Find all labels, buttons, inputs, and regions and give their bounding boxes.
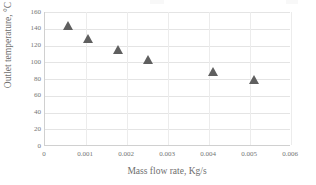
gridline-vertical <box>86 12 87 145</box>
x-axis-tick-labels: 00.0010.0020.0030.0040.0050.006 <box>0 150 316 160</box>
chart-container: 020406080100120140160 00.0010.0020.0030.… <box>0 0 316 185</box>
y-axis-tick-label: 0 <box>1 143 41 150</box>
data-point-marker <box>63 21 73 30</box>
x-axis-tick-label: 0.005 <box>227 150 271 158</box>
data-point-marker <box>113 45 123 54</box>
x-axis-tick-label: 0 <box>22 150 66 158</box>
y-axis-title: Outlet temperature, °C <box>2 2 14 88</box>
cropped-caption-artifact <box>150 0 164 4</box>
data-point-marker <box>208 67 218 76</box>
x-axis-tick-label: 0.003 <box>145 150 189 158</box>
x-axis-tick-label: 0.004 <box>186 150 230 158</box>
y-axis-tick-label: 40 <box>1 109 41 116</box>
data-point-marker <box>143 55 153 64</box>
cropped-caption-artifact <box>286 0 298 4</box>
x-axis-tick-label: 0.006 <box>268 150 312 158</box>
plot-area <box>44 12 290 146</box>
y-axis-tick-label: 20 <box>1 126 41 133</box>
data-point-marker <box>83 34 93 43</box>
gridline-vertical <box>168 12 169 145</box>
data-point-marker <box>249 75 259 84</box>
y-axis-title-wrapper: Outlet temperature, °C <box>1 0 15 105</box>
x-axis-tick-label: 0.002 <box>104 150 148 158</box>
gridline-vertical <box>209 12 210 145</box>
gridline-vertical <box>127 12 128 145</box>
x-axis-tick-label: 0.001 <box>63 150 107 158</box>
x-axis-title: Mass flow rate, Kg/s <box>44 165 290 177</box>
gridline-vertical <box>291 12 292 145</box>
